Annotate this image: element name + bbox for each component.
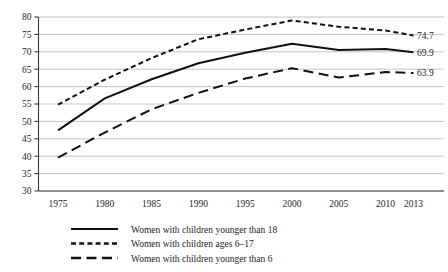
y-tick-label-55: 55 xyxy=(22,99,32,109)
x-axis-tick-labels: 197519801985199019952000200520102013 xyxy=(49,199,424,209)
y-tick-label-45: 45 xyxy=(22,134,32,144)
y-tick-label-80: 80 xyxy=(22,12,32,22)
y-tick-label-75: 75 xyxy=(22,30,32,40)
x-tick-label-1975: 1975 xyxy=(49,199,68,209)
x-tick-label-2010: 2010 xyxy=(376,199,395,209)
series-end-label-2: 63.9 xyxy=(417,68,434,78)
line-chart: 3035404550556065707580 19751980198519901… xyxy=(0,0,448,272)
x-tick-label-2000: 2000 xyxy=(283,199,302,209)
y-tick-label-35: 35 xyxy=(22,169,32,179)
x-tick-label-2005: 2005 xyxy=(329,199,348,209)
x-tick-label-1985: 1985 xyxy=(142,199,161,209)
gridlines-group xyxy=(39,17,445,191)
y-tick-label-30: 30 xyxy=(22,186,32,196)
series-end-labels: 69.974.763.9 xyxy=(417,31,434,79)
series-end-label-0: 69.9 xyxy=(417,48,434,58)
series-line-1 xyxy=(58,20,414,104)
y-tick-label-40: 40 xyxy=(22,152,32,162)
legend-label-1: Women with children ages 6–17 xyxy=(131,239,254,249)
y-axis-tick-labels: 3035404550556065707580 xyxy=(22,12,32,196)
legend-label-0: Women with children younger than 18 xyxy=(131,225,277,235)
chart-container: 3035404550556065707580 19751980198519901… xyxy=(0,0,448,272)
x-tick-label-1980: 1980 xyxy=(95,199,114,209)
y-tick-label-60: 60 xyxy=(22,82,32,92)
x-tick-label-1990: 1990 xyxy=(189,199,208,209)
x-tick-label-2013: 2013 xyxy=(404,199,423,209)
legend-label-2: Women with children younger than 6 xyxy=(131,254,273,264)
chart-legend: Women with children younger than 18Women… xyxy=(71,225,277,264)
y-tick-label-70: 70 xyxy=(22,47,32,57)
series-line-2 xyxy=(58,68,414,157)
series-line-0 xyxy=(58,44,414,131)
data-series-group xyxy=(58,20,414,157)
y-tick-label-65: 65 xyxy=(22,65,32,75)
series-end-label-1: 74.7 xyxy=(417,31,434,41)
x-tick-label-1995: 1995 xyxy=(236,199,255,209)
y-tick-label-50: 50 xyxy=(22,117,32,127)
